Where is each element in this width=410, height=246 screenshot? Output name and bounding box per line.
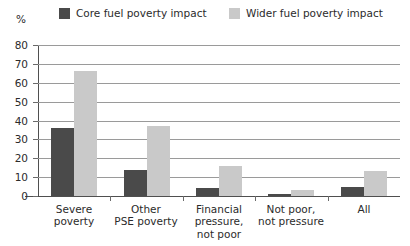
- legend-swatch-core: [59, 8, 70, 19]
- x-axis-tick: [183, 196, 184, 201]
- legend-item-wider: Wider fuel poverty impact: [229, 8, 383, 19]
- y-axis-label: 10: [0, 172, 28, 183]
- y-axis-label: 80: [0, 40, 28, 51]
- x-axis-category-label: Financial pressure, not poor: [183, 203, 255, 240]
- bar: [124, 170, 147, 196]
- legend-item-core: Core fuel poverty impact: [59, 8, 207, 19]
- bar: [74, 71, 97, 196]
- y-axis-label: 0: [0, 191, 28, 202]
- bar: [219, 166, 242, 196]
- bar: [291, 190, 314, 196]
- x-axis-category-label: All: [328, 203, 400, 215]
- chart-legend: Core fuel poverty impact Wider fuel pove…: [0, 0, 410, 30]
- y-axis-label: 60: [0, 78, 28, 89]
- x-axis-category-label: Other PSE poverty: [110, 203, 182, 228]
- bar: [364, 171, 387, 196]
- x-axis-category-label: Not poor, not pressure: [255, 203, 327, 228]
- y-axis-unit-label: %: [16, 13, 26, 25]
- x-axis-line: [25, 196, 400, 197]
- x-axis-category-label: Severe poverty: [38, 203, 110, 228]
- fuel-poverty-bar-chart: Core fuel poverty impact Wider fuel pove…: [0, 0, 410, 246]
- y-axis-label: 70: [0, 59, 28, 70]
- x-axis-tick: [110, 196, 111, 201]
- plot-area: [38, 45, 400, 196]
- bar: [268, 194, 291, 196]
- legend-label-wider: Wider fuel poverty impact: [246, 8, 383, 19]
- bar: [147, 126, 170, 196]
- legend-swatch-wider: [229, 8, 240, 19]
- bar: [196, 188, 219, 196]
- bar: [341, 187, 364, 196]
- y-axis-tick: [33, 196, 38, 197]
- y-axis-label: 40: [0, 116, 28, 127]
- x-axis-tick: [328, 196, 329, 201]
- y-axis-label: 30: [0, 134, 28, 145]
- bar: [51, 128, 74, 196]
- y-axis-label: 50: [0, 97, 28, 108]
- y-axis-label: 20: [0, 153, 28, 164]
- x-axis-tick: [255, 196, 256, 201]
- legend-label-core: Core fuel poverty impact: [76, 8, 207, 19]
